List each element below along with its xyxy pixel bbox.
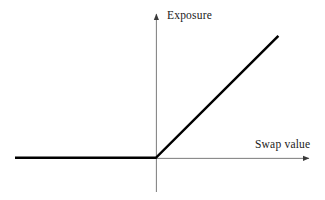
exposure-payoff-line (15, 36, 278, 158)
y-axis-label: Exposure (167, 9, 212, 21)
chart-canvas (0, 0, 325, 200)
exposure-payoff-chart: Exposure Swap value (0, 0, 325, 200)
x-axis-label: Swap value (255, 138, 310, 150)
